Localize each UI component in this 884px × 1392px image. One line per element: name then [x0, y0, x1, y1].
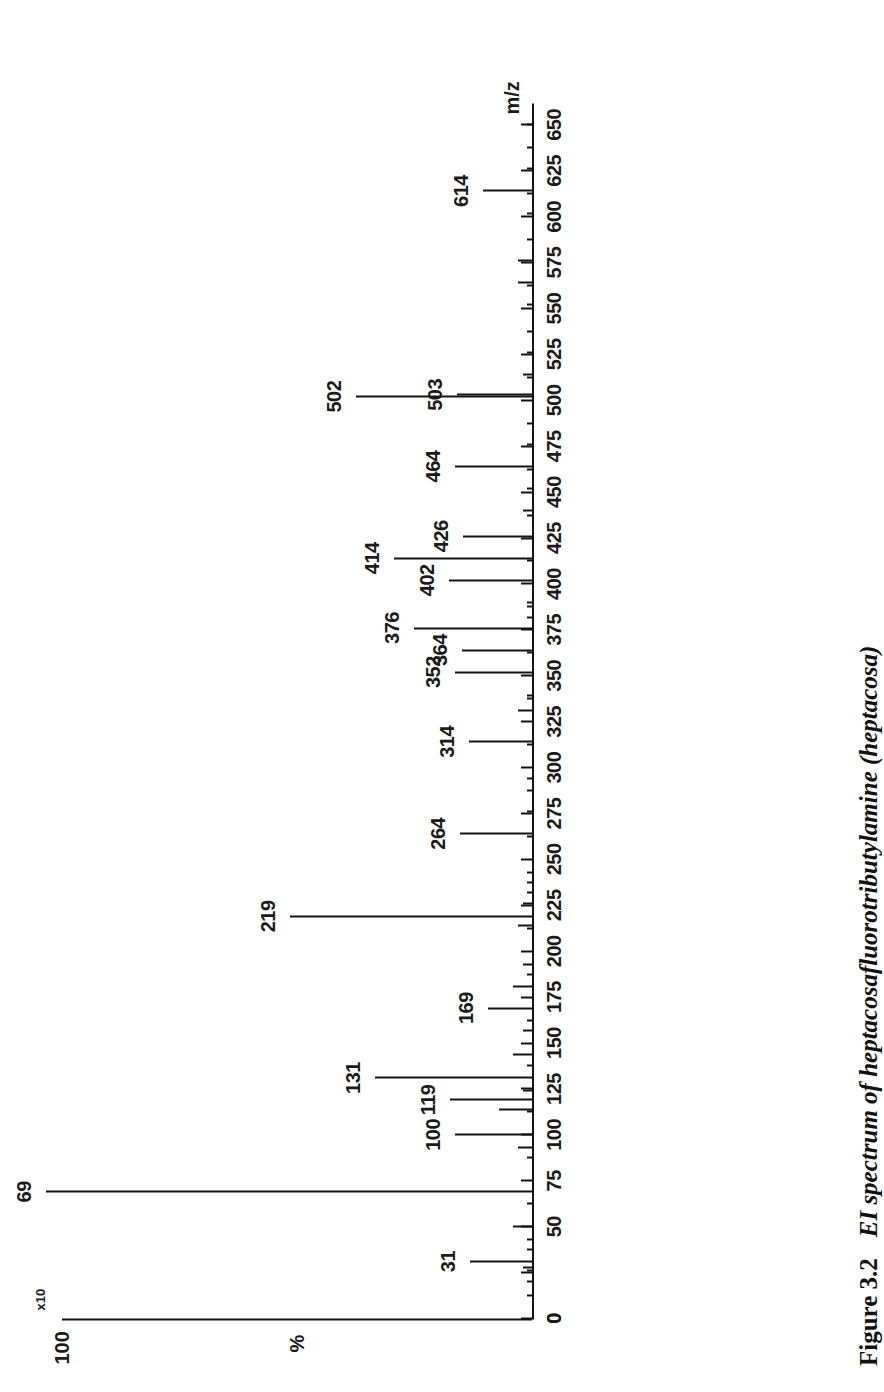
mz-tick-minor	[527, 1019, 534, 1021]
mz-tick-minor	[527, 606, 534, 608]
mz-tick-label: 600	[543, 201, 566, 233]
mz-tick-major	[521, 491, 534, 493]
mz-tick-label: 625	[543, 155, 566, 187]
peak-bar	[527, 1270, 532, 1272]
peak-bar	[513, 985, 532, 987]
mz-tick-minor	[527, 1111, 534, 1113]
peak-bar	[523, 1029, 532, 1031]
peak-bar	[513, 1053, 532, 1055]
mz-tick-minor	[527, 881, 534, 883]
mz-tick-label: 250	[543, 843, 566, 875]
mz-tick-label: 125	[543, 1073, 566, 1105]
peak-label-leader	[469, 741, 485, 743]
mz-tick-major	[521, 537, 534, 539]
mz-tick-major	[521, 170, 534, 172]
mz-tick-major	[521, 262, 534, 264]
peak-label: 364	[429, 634, 452, 666]
peak-bar	[518, 260, 532, 262]
peak-bar	[527, 1239, 532, 1241]
peak-bar	[527, 891, 532, 893]
peak-bar-labelled	[490, 1099, 532, 1101]
peak-bar	[513, 1226, 532, 1228]
mz-tick-label: 500	[543, 384, 566, 416]
peak-bar-labelled	[509, 579, 533, 581]
mz-tick-minor	[527, 468, 534, 470]
mz-tick-major	[521, 399, 534, 401]
peak-bar	[527, 168, 532, 170]
peak-bar-labelled	[471, 465, 532, 467]
peak-bar	[527, 871, 532, 873]
peak-label: 119	[417, 1085, 440, 1116]
peak-label-leader	[488, 1007, 504, 1009]
peak-bar-labelled	[518, 627, 532, 629]
peak-label-leader	[483, 190, 499, 192]
peak-label: 219	[257, 900, 280, 932]
peak-label: 31	[437, 1251, 460, 1272]
peak-label-leader	[463, 535, 499, 537]
scale-multiplier-note: x10	[33, 1289, 48, 1311]
mz-zero-label: 0	[543, 1313, 566, 1324]
mz-tick-minor	[527, 652, 534, 654]
mz-tick-major	[521, 308, 534, 310]
figure-title: EI spectrum of heptacosafluorotributylam…	[855, 646, 882, 1238]
peak-label-leader	[450, 1099, 490, 1101]
peak-label: 426	[430, 520, 453, 552]
mz-tick-minor	[527, 927, 534, 929]
mz-tick-label: 75	[543, 1170, 566, 1191]
mz-tick-major	[521, 1180, 534, 1182]
mz-tick-minor	[527, 147, 534, 149]
mz-tick-major	[521, 353, 534, 355]
mz-tick-major	[521, 813, 534, 815]
caption-line-1: Figure 3.2 EI spectrum of heptacosafluor…	[854, 646, 883, 1366]
mz-tick-label: 650	[543, 109, 566, 141]
peak-bar	[527, 124, 532, 126]
peak-bar-labelled	[391, 1077, 532, 1079]
peak-bar	[527, 352, 532, 354]
peak-label-leader	[449, 579, 509, 581]
mz-tick-minor	[527, 790, 534, 792]
mz-tick-label: 175	[543, 981, 566, 1013]
mz-tick-major	[521, 1042, 534, 1044]
peak-label-leader	[455, 465, 471, 467]
peak-label: 614	[450, 175, 473, 207]
mz-tick-label: 475	[543, 430, 566, 462]
peak-bar	[523, 1266, 532, 1268]
mz-tick-label: 100	[543, 1119, 566, 1151]
peak-label-leader	[455, 671, 471, 673]
mz-tick-major	[521, 629, 534, 631]
peak-label: 314	[436, 726, 459, 758]
peak-label-leader	[290, 915, 306, 917]
peak-label: 376	[381, 612, 404, 644]
mz-tick-minor	[527, 330, 534, 332]
peak-bar-labelled	[518, 1261, 532, 1263]
mz-tick-label: 150	[543, 1027, 566, 1059]
mz-tick-label: 350	[543, 660, 566, 692]
peak-label-leader	[394, 557, 410, 559]
peak-bar-labelled	[410, 557, 532, 559]
mass-spectrum-plot: 100 % x10 050751001251501752002252502753…	[4, 74, 704, 1319]
peak-bar	[499, 1108, 532, 1110]
mz-tick-label: 275	[543, 798, 566, 830]
peak-label-leader	[414, 627, 518, 629]
mz-tick-minor	[527, 285, 534, 287]
mz-tick-minor	[527, 1157, 534, 1159]
peak-bar-labelled	[485, 741, 532, 743]
peak-bar-labelled	[504, 649, 532, 651]
peak-bar	[527, 443, 532, 445]
peak-label: 264	[427, 818, 450, 850]
peak-label: 169	[455, 992, 478, 1024]
spectrum-rotated-wrapper: 100 % x10 050751001251501752002252502753…	[0, 0, 884, 1392]
mz-tick-label: 525	[543, 338, 566, 370]
peak-bar	[527, 1281, 532, 1283]
mz-tick-minor	[527, 193, 534, 195]
peak-bar-labelled	[476, 833, 532, 835]
mz-tick-minor	[527, 1065, 534, 1067]
peak-bar-labelled	[499, 190, 532, 192]
mz-tick-label: 300	[543, 752, 566, 784]
mz-tick-minor	[527, 560, 534, 562]
mz-tick-major	[521, 858, 534, 860]
mz-tick-minor	[527, 1249, 534, 1251]
mz-tick-minor	[527, 835, 534, 837]
mz-tick-label: 325	[543, 706, 566, 738]
mz-tick-label: 575	[543, 247, 566, 279]
